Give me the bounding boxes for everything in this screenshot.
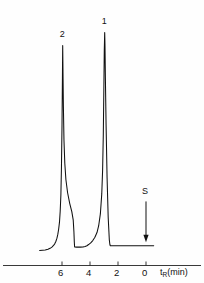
detector-signal-trace [40, 33, 154, 251]
injection-arrow-head [143, 235, 148, 243]
chromatogram-figure: 2 1 S 6 4 2 0 tR(min) [0, 0, 204, 283]
axis-title-units: (min) [167, 267, 188, 277]
axis-title: tR(min) [160, 268, 188, 277]
injection-event-label: S [142, 187, 148, 196]
axis-tick-marks [62, 262, 146, 266]
axis-tick-label-2: 2 [114, 268, 119, 278]
peak-label-1: 1 [102, 17, 107, 26]
peak-label-2: 2 [60, 30, 65, 39]
time-axis [3, 262, 201, 266]
axis-tick-label-4: 4 [86, 268, 91, 278]
axis-title-subscript: R [163, 271, 168, 278]
axis-tick-label-6: 6 [58, 268, 63, 278]
chromatogram-plot [0, 0, 204, 283]
axis-tick-label-0: 0 [142, 268, 147, 278]
injection-arrow-icon [143, 201, 148, 242]
